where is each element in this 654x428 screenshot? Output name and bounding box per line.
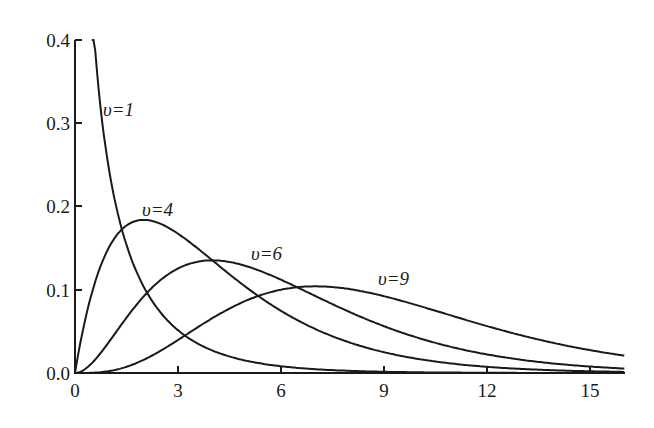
x-tick-label: 9 <box>379 380 389 401</box>
chi-square-density-chart: 0.4 0.3 0.2 0.1 0.0 0 3 6 9 12 15 υ=1 υ=… <box>0 0 654 428</box>
curve-df-4 <box>75 220 624 373</box>
curve-label-df-4: υ=4 <box>142 199 174 220</box>
y-tick-label: 0.2 <box>46 196 70 217</box>
x-tick-label: 6 <box>276 380 286 401</box>
x-tick-label: 0 <box>70 380 80 401</box>
curve-label-df-6: υ=6 <box>251 243 283 264</box>
curve-df-6 <box>75 260 624 373</box>
curve-df-9 <box>75 286 624 373</box>
curve-label-df-1: υ=1 <box>103 99 134 120</box>
y-tick-label: 0.1 <box>46 280 70 301</box>
curve-label-df-9: υ=9 <box>378 268 410 289</box>
y-tick-label: 0.0 <box>46 363 70 384</box>
x-tick-label: 3 <box>173 380 183 401</box>
x-tick-label: 15 <box>581 380 600 401</box>
y-tick-label: 0.3 <box>46 113 70 134</box>
y-tick-label: 0.4 <box>46 30 70 51</box>
x-tick-label: 12 <box>478 380 497 401</box>
